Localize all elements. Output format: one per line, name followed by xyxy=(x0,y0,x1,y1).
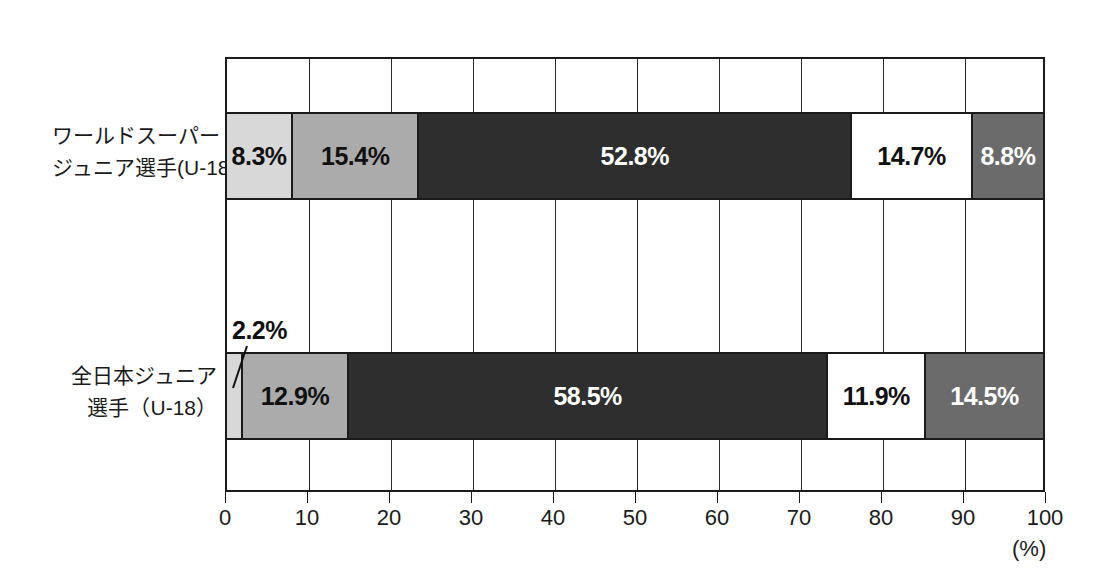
bar-segment-value: 11.9% xyxy=(843,382,910,411)
stacked-bar-chart: ワールドスーパー ジュニア選手(U-18) 全日本ジュニア 選手（U-18） 8… xyxy=(0,0,1111,576)
x-axis-tick-label: 40 xyxy=(541,505,565,531)
bar-segment-value: 12.9% xyxy=(261,382,329,411)
bar-segment: 58.5% xyxy=(349,354,829,438)
callout-leader-line xyxy=(225,344,265,392)
x-axis-tick xyxy=(881,492,882,503)
x-axis-tick xyxy=(389,492,390,503)
bar-segment-value: 52.8% xyxy=(601,142,669,171)
x-axis-tick xyxy=(717,492,718,503)
x-axis-tick-label: 20 xyxy=(377,505,401,531)
bar-segment: 14.7% xyxy=(852,114,973,198)
x-axis-unit-label: (%) xyxy=(1012,536,1046,562)
bar-segment: 14.5% xyxy=(926,354,1045,438)
bar-row: 8.3%15.4%52.8%14.7%8.8% xyxy=(225,112,1045,200)
x-axis-tick-label: 70 xyxy=(787,505,811,531)
x-axis-tick xyxy=(307,492,308,503)
bar-segment-value: 15.4% xyxy=(321,142,389,171)
bar-segment: 8.3% xyxy=(225,114,293,198)
bar-segment: 11.9% xyxy=(828,354,926,438)
category-label-line: 選手（U-18） xyxy=(52,392,217,424)
bar-segment-value: 58.5% xyxy=(553,382,621,411)
callout-2-2-percent-label: 2.2% xyxy=(232,316,287,345)
bar-segment-value: 14.7% xyxy=(877,142,945,171)
x-axis-tick-label: 80 xyxy=(869,505,893,531)
x-axis-tick xyxy=(635,492,636,503)
category-label-line: ジュニア選手(U-18) xyxy=(52,152,217,184)
bar-segment-value: 14.5% xyxy=(950,382,1018,411)
x-axis-tick xyxy=(225,492,226,503)
x-axis-tick-label: 60 xyxy=(705,505,729,531)
x-axis-tick-label: 10 xyxy=(295,505,319,531)
category-label-1: 全日本ジュニア 選手（U-18） xyxy=(52,360,217,424)
bar-segment-value: 8.8% xyxy=(980,142,1035,171)
bar-row: 12.9%58.5%11.9%14.5% xyxy=(225,352,1045,440)
bar-segment-value: 8.3% xyxy=(232,142,287,171)
x-axis-tick-label: 50 xyxy=(623,505,647,531)
x-axis-tick xyxy=(553,492,554,503)
x-axis-tick xyxy=(471,492,472,503)
category-label-0: ワールドスーパー ジュニア選手(U-18) xyxy=(52,120,217,184)
category-label-line: ワールドスーパー xyxy=(52,120,217,152)
x-axis-tick-label: 0 xyxy=(219,505,231,531)
bar-segment: 52.8% xyxy=(419,114,852,198)
x-axis-tick xyxy=(1045,492,1046,503)
x-axis-tick-label: 30 xyxy=(459,505,483,531)
bar-segment: 8.8% xyxy=(973,114,1045,198)
x-axis-tick-label: 90 xyxy=(951,505,975,531)
x-axis-tick-label: 100 xyxy=(1027,505,1064,531)
category-label-line: 全日本ジュニア xyxy=(52,360,217,392)
x-axis-tick xyxy=(963,492,964,503)
bar-segment: 15.4% xyxy=(293,114,419,198)
x-axis-tick xyxy=(799,492,800,503)
